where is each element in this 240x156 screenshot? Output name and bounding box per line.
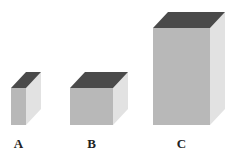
box-b	[70, 72, 128, 125]
front-face	[70, 88, 113, 125]
label-c: C	[177, 136, 186, 152]
front-face	[11, 88, 26, 125]
box-a	[11, 72, 41, 125]
cuboid-diagram	[0, 0, 240, 156]
front-face	[153, 28, 210, 125]
box-c	[153, 12, 225, 125]
label-b: B	[87, 136, 96, 152]
label-a: A	[14, 136, 23, 152]
side-face	[210, 12, 225, 125]
